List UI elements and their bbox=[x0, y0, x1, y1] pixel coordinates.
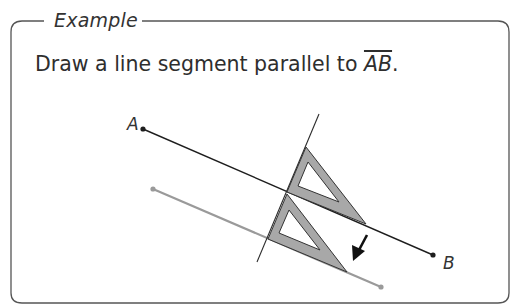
segment-ab-notation: AB bbox=[364, 52, 392, 76]
instruction-period: . bbox=[392, 52, 399, 76]
point-b-label: B bbox=[443, 253, 455, 273]
example-frame bbox=[0, 0, 518, 306]
point-a-label: A bbox=[127, 114, 139, 134]
point-a bbox=[140, 126, 145, 131]
parallel-endpoint-left bbox=[150, 186, 155, 191]
slide-arrow-icon bbox=[352, 235, 367, 261]
parallel-endpoint-right bbox=[378, 284, 383, 289]
point-b bbox=[430, 252, 435, 257]
instruction-text: Draw a line segment parallel to AB. bbox=[35, 50, 399, 78]
instruction-body: Draw a line segment parallel to bbox=[35, 52, 364, 76]
example-heading: Example bbox=[50, 7, 142, 33]
